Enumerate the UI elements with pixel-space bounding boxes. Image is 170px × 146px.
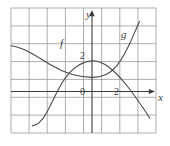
x-axis-tick-label-2: 2 (114, 87, 119, 97)
plot-canvas (0, 0, 170, 146)
y-axis-label: y (86, 9, 91, 20)
curve-label-f: f (60, 38, 63, 49)
graph-figure: y x f g 2 0 2 (0, 0, 170, 146)
x-axis-label: x (158, 92, 163, 103)
curve-f (32, 61, 149, 126)
curve-label-g: g (121, 29, 127, 40)
x-axis-arrow-icon (149, 89, 155, 94)
axes (11, 10, 155, 133)
y-axis-tick-label-2: 2 (80, 51, 85, 61)
origin-label: 0 (80, 87, 85, 97)
grid-lines (11, 8, 156, 133)
